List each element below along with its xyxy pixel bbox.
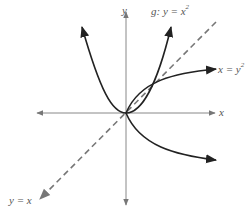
parabola-x-equals-y-squared — [126, 69, 216, 160]
inverse-curve-label: x = y2 — [218, 64, 244, 75]
g-curve-label-exponent: 2 — [186, 3, 190, 11]
graph-canvas — [0, 0, 252, 221]
y-axis-label: y — [122, 5, 127, 16]
g-curve-label: g: y = x2 — [151, 6, 189, 17]
x-axis-label: x — [219, 107, 224, 118]
g-curve-label-text: g: y = x — [151, 5, 186, 17]
inverse-curve-label-text: x = y — [218, 63, 241, 75]
identity-line-label: y = x — [9, 195, 32, 206]
inverse-curve-label-exponent: 2 — [241, 61, 245, 69]
